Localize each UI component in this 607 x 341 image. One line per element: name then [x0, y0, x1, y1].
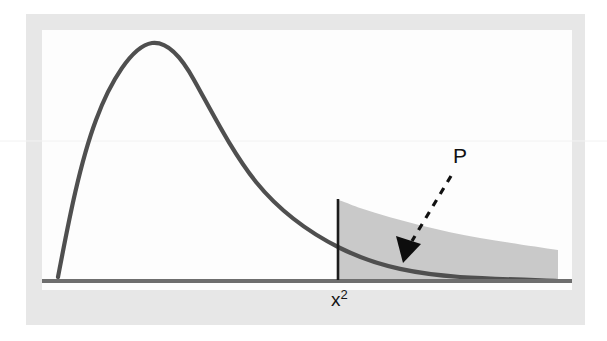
probability-label: P — [453, 144, 467, 167]
critical-value-label-superscript: 2 — [341, 287, 348, 302]
critical-value-label-base: x — [331, 289, 341, 310]
chi-square-distribution-figure: x2 P — [0, 0, 607, 341]
figure-root: x2 P — [0, 0, 607, 341]
